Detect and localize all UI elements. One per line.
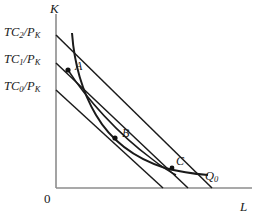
isocost-label-tc2: TC2/PK xyxy=(4,26,40,39)
k-axis-label: K xyxy=(50,2,59,15)
point-c-marker xyxy=(170,166,175,171)
isocost-label-tc2-name: TC xyxy=(4,25,19,39)
isocost-label-tc2-denom: /P xyxy=(24,25,35,39)
point-a-marker xyxy=(65,67,70,72)
l-axis-label: L xyxy=(240,200,247,213)
isocost-label-tc1-denom-sub: K xyxy=(35,57,41,67)
isocost-label-tc0-name: TC xyxy=(4,79,19,93)
point-b-marker xyxy=(112,135,117,140)
isocost-label-tc0-denom: /P xyxy=(24,79,35,93)
isocost-label-tc0-sub: 0 xyxy=(19,84,23,94)
isocost-line-tc0 xyxy=(56,90,163,188)
point-c-label: C xyxy=(176,155,184,167)
isoquant-label-q0-name: Q xyxy=(205,169,214,183)
isoquant-curve-q0 xyxy=(72,33,208,175)
isocost-label-tc1: TC1/PK xyxy=(4,53,40,66)
isocost-label-tc0: TC0/PK xyxy=(4,80,40,93)
origin-label: 0 xyxy=(44,192,51,205)
point-b-label: B xyxy=(122,127,129,139)
isoquant-isocost-figure: K L 0 TC2/PK TC1/PK TC0/PK Q0 A B C xyxy=(0,0,259,222)
isoquant-label-q0-sub: 0 xyxy=(214,174,218,184)
isocost-label-tc0-denom-sub: K xyxy=(35,84,41,94)
expansion-path-curve xyxy=(68,70,176,175)
isocost-label-tc1-denom: /P xyxy=(24,52,35,66)
isoquant-label-q0: Q0 xyxy=(205,170,218,183)
isocost-label-tc2-denom-sub: K xyxy=(35,30,41,40)
isocost-label-tc1-sub: 1 xyxy=(19,57,23,67)
point-a-label: A xyxy=(75,60,82,72)
isocost-label-tc2-sub: 2 xyxy=(19,30,23,40)
isocost-label-tc1-name: TC xyxy=(4,52,19,66)
